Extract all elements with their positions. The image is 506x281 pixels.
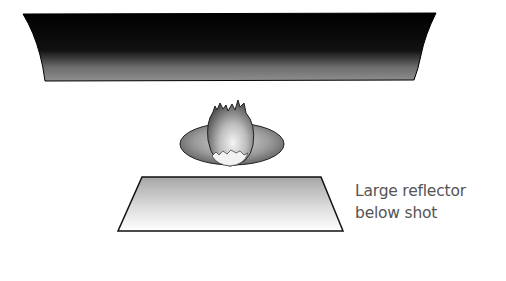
egg-subject bbox=[208, 100, 254, 166]
reflector bbox=[118, 177, 343, 231]
lighting-diagram bbox=[0, 0, 506, 281]
reflector-label: Large reflector below shot bbox=[355, 180, 466, 224]
label-line-1: Large reflector bbox=[355, 180, 466, 202]
label-line-2: below shot bbox=[355, 202, 466, 224]
overhead-panel bbox=[23, 13, 436, 81]
